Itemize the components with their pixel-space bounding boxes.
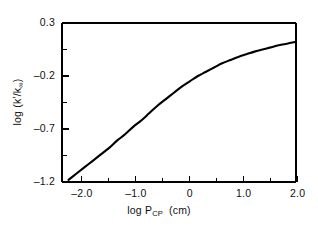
y-minor-ticks (62, 50, 67, 156)
data-series-line (68, 42, 294, 180)
x-tick-label: 1.0 (219, 187, 269, 199)
x-axis-title: log PCP (cm) (0, 204, 318, 218)
x-tick-label: –2.0 (57, 187, 107, 199)
y-tick-label: 0.3 (10, 16, 55, 28)
y-axis-title-main: log (k'/k (11, 88, 23, 126)
y-tick-label: –1.2 (10, 175, 55, 187)
y-axis-title: log (k'/k∞) (11, 42, 25, 162)
x-tick-label: 2.0 (273, 187, 318, 199)
x-tick-label: 0 (165, 187, 215, 199)
x-major-ticks (82, 176, 298, 182)
x-axis-title-unit: (cm) (169, 204, 191, 216)
y-axis-title-subscript: ∞ (16, 82, 25, 88)
y-axis-title-tail: ) (11, 79, 23, 83)
x-axis-title-main: log P (127, 204, 152, 216)
figure-container: –2.0–1.001.02.0 0.3–0.2–0.7–1.2 log PCP … (0, 0, 318, 228)
x-axis-title-subscript: CP (152, 209, 163, 218)
x-tick-label: –1.0 (111, 187, 161, 199)
